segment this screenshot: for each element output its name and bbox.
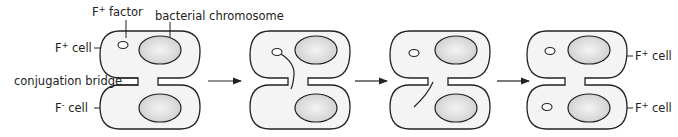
stage-4 xyxy=(527,31,627,129)
conjugation-diagram: F+ factor bacterial chromosome F+ cell c… xyxy=(0,0,678,137)
stage-2 xyxy=(250,31,350,129)
chromosome-bottom xyxy=(295,94,337,122)
chromosome-top xyxy=(295,36,337,64)
chromosome-bottom xyxy=(435,94,477,122)
f-factor-label: F+ factor xyxy=(92,5,143,19)
chromosome-bottom xyxy=(139,94,181,122)
f-factor-plasmid xyxy=(118,42,128,49)
chromosome-top xyxy=(568,36,610,64)
result-bottom-cell-label: F+ cell xyxy=(635,101,672,115)
bridge-label: conjugation bridge xyxy=(14,74,122,88)
chromosome-top xyxy=(435,36,477,64)
chromosome-bottom xyxy=(568,94,610,122)
stage-3 xyxy=(390,31,490,129)
donor-cell-label: F+ cell xyxy=(55,41,92,55)
result-top-cell-label: F+ cell xyxy=(635,49,672,63)
f-factor-plasmid-bottom xyxy=(542,104,552,111)
chromosome-top xyxy=(139,36,181,64)
stage-4-labels: F+ cell F+ cell xyxy=(627,49,672,115)
recipient-cell-label: F- cell xyxy=(55,101,88,115)
chromosome-label: bacterial chromosome xyxy=(155,9,284,23)
f-factor-plasmid xyxy=(272,49,282,56)
f-factor-plasmid xyxy=(409,50,419,57)
f-factor-plasmid-top xyxy=(545,48,555,55)
